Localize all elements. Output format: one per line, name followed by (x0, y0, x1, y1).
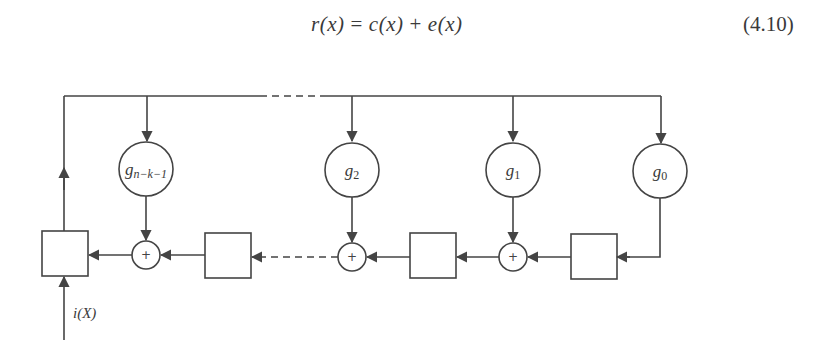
label-g1: g1 (506, 161, 521, 182)
input-label: i(X) (73, 305, 96, 322)
adder-3-plus: + (508, 250, 518, 264)
register-4 (571, 234, 617, 279)
label-g0: g0 (653, 162, 668, 183)
register-3 (410, 233, 456, 278)
encoder-diagram: + + + gn−k−1 g2 g1 g0 i(X) (0, 0, 814, 346)
register-1 (42, 231, 88, 276)
adder-1-plus: + (141, 248, 151, 262)
register-2 (205, 233, 251, 278)
label-g2: g2 (345, 161, 360, 182)
g0-to-register (619, 198, 660, 257)
adder-2-plus: + (347, 250, 357, 264)
label-gnk1: gn−k−1 (125, 160, 167, 181)
